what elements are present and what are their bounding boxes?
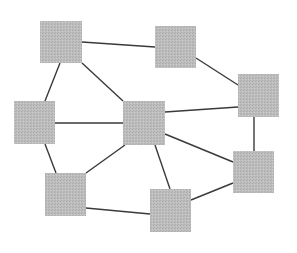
node-e xyxy=(123,101,165,145)
edge-g-h xyxy=(86,208,150,214)
edge-e-f xyxy=(165,134,233,162)
edge-d-g xyxy=(45,144,56,173)
node-d xyxy=(14,101,55,144)
node-c xyxy=(238,74,279,117)
edge-a-d xyxy=(45,63,60,101)
edge-e-c xyxy=(165,107,238,112)
edge-e-h xyxy=(155,145,170,189)
node-f xyxy=(233,151,274,193)
node-a xyxy=(40,21,82,63)
network-diagram xyxy=(0,0,297,253)
node-b xyxy=(155,26,196,68)
node-h xyxy=(150,189,191,232)
node-g xyxy=(45,173,86,216)
nodes-group xyxy=(14,21,279,232)
edge-a-e xyxy=(82,63,123,101)
edge-a-b xyxy=(82,42,155,47)
edge-e-g xyxy=(86,145,125,173)
edge-b-c xyxy=(196,58,238,85)
edge-h-f xyxy=(191,183,233,200)
